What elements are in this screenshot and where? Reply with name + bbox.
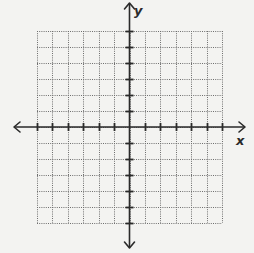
axes [14, 3, 245, 248]
coordinate-plane [0, 0, 254, 253]
x-axis-label: x [236, 134, 244, 147]
y-axis-label: y [134, 4, 142, 17]
